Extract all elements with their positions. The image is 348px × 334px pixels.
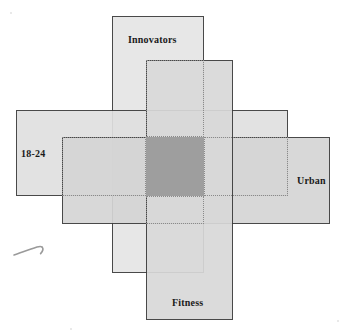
set-label-18-24: 18-24 — [21, 148, 45, 159]
guide-rect-inner-upper — [146, 60, 204, 137]
set-label-fitness: Fitness — [172, 297, 203, 308]
guide-rect-inner-lower — [146, 196, 204, 224]
guide-rect-inner-right — [204, 137, 288, 196]
set-label-urban: Urban — [297, 175, 326, 186]
set-label-innovators: Innovators — [128, 34, 177, 45]
intersection-all-four[interactable] — [146, 137, 204, 196]
venn-diagram-canvas: Innovators 18-24 Urban Fitness — [0, 0, 348, 334]
speckle — [10, 12, 12, 14]
hand-drawn-arrow-icon — [12, 240, 52, 264]
speckle — [70, 328, 72, 330]
speckle — [337, 320, 339, 322]
guide-rect-inner-left — [62, 137, 146, 196]
